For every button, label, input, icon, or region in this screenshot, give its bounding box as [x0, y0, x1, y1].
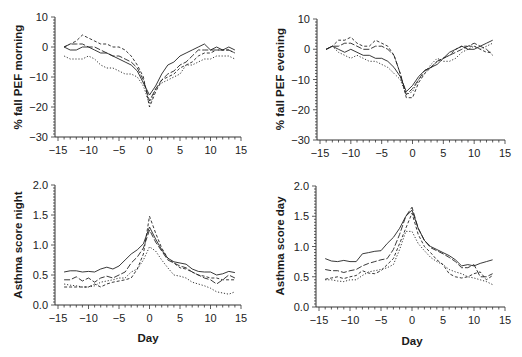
series-line-dash [64, 35, 235, 107]
y-tick-label: −10 [29, 71, 48, 83]
x-tick-label: −10 [79, 144, 98, 156]
y-tick-label: 1.0 [294, 241, 309, 253]
y-tick-label: 1.5 [294, 210, 309, 222]
y-tick-label: −20 [29, 101, 48, 113]
y-tick-label: 1.5 [33, 209, 48, 221]
x-tick-label: −5 [113, 312, 126, 324]
x-tick-label: 15 [499, 147, 511, 159]
series-line-solid [325, 210, 492, 266]
x-tick-label: −10 [79, 312, 98, 324]
series-line-dotted [64, 247, 235, 294]
y-tick-label: 10 [36, 11, 48, 23]
x-tick-label: 10 [204, 312, 216, 324]
y-tick-label: 2.0 [33, 179, 48, 191]
x-tick-label: −15 [311, 147, 330, 159]
ylabel-asthma-day: Asthma score day [274, 196, 286, 296]
series-line-solid [64, 44, 235, 95]
y-tick-label: −10 [291, 74, 310, 86]
y-tick-label: 2.0 [294, 180, 309, 192]
y-tick-label: −30 [29, 131, 48, 143]
y-tick-label: 1.0 [33, 239, 48, 251]
y-tick-label: −30 [291, 134, 310, 146]
series-line-longdash [64, 230, 235, 284]
x-tick-label: −5 [375, 147, 388, 159]
y-tick-label: 0 [304, 43, 310, 55]
series-line-dotted [64, 56, 235, 104]
x-tick-label: 10 [468, 314, 480, 326]
x-tick-label: 5 [440, 147, 446, 159]
y-tick-label: 0.0 [294, 301, 309, 313]
x-tick-label: −15 [49, 144, 68, 156]
series-line-solid [326, 40, 493, 91]
panel-asthma-day: −15−10−50510152.01.51.00.50.0 [294, 180, 511, 326]
series-line-longdash [325, 207, 492, 277]
x-tick-label: 0 [146, 144, 152, 156]
series-line-dash [325, 213, 492, 280]
ylabel-asthma-night: Asthma score night [12, 191, 24, 299]
series-line-solid [64, 227, 235, 275]
y-tick-label: 0.5 [294, 271, 309, 283]
x-tick-label: −10 [341, 314, 360, 326]
x-tick-label: 15 [235, 144, 247, 156]
y-tick-label: 10 [298, 13, 310, 25]
x-tick-label: 15 [499, 314, 511, 326]
ylabel-pef-evening: % fall PEF evening [274, 28, 286, 130]
x-tick-label: 0 [409, 147, 415, 159]
x-tick-label: −10 [341, 147, 360, 159]
x-tick-label: 5 [177, 144, 183, 156]
xlabel-asthma-day: Day [401, 335, 423, 347]
x-tick-label: −5 [375, 314, 388, 326]
x-tick-label: 0 [146, 312, 152, 324]
x-tick-label: −5 [113, 144, 126, 156]
panel-asthma-night: −15−10−50510152.01.51.00.50.0 [33, 179, 247, 324]
ylabel-pef-morning: % fall PEF morning [12, 25, 24, 130]
x-tick-label: 10 [204, 144, 216, 156]
x-tick-label: −15 [49, 312, 68, 324]
x-tick-label: 5 [177, 312, 183, 324]
panel-pef-morning: −15−10−5051015100−10−20−30 [29, 11, 247, 156]
x-tick-label: −15 [310, 314, 329, 326]
x-tick-label: 5 [440, 314, 446, 326]
y-tick-label: −20 [291, 104, 310, 116]
x-tick-label: 10 [468, 147, 480, 159]
y-tick-label: 0 [42, 41, 48, 53]
y-tick-label: 0.5 [33, 269, 48, 281]
figure: −15−10−5051015100−10−20−30 −15−10−505101… [0, 0, 522, 357]
panel-pef-evening: −15−10−5051015100−10−20−30 [291, 13, 511, 159]
series-line-dotted [326, 43, 493, 94]
y-tick-label: 0.0 [33, 299, 48, 311]
x-tick-label: 0 [409, 314, 415, 326]
xlabel-asthma-night: Day [137, 332, 159, 344]
x-tick-label: 15 [235, 312, 247, 324]
series-line-longdash [326, 43, 493, 94]
